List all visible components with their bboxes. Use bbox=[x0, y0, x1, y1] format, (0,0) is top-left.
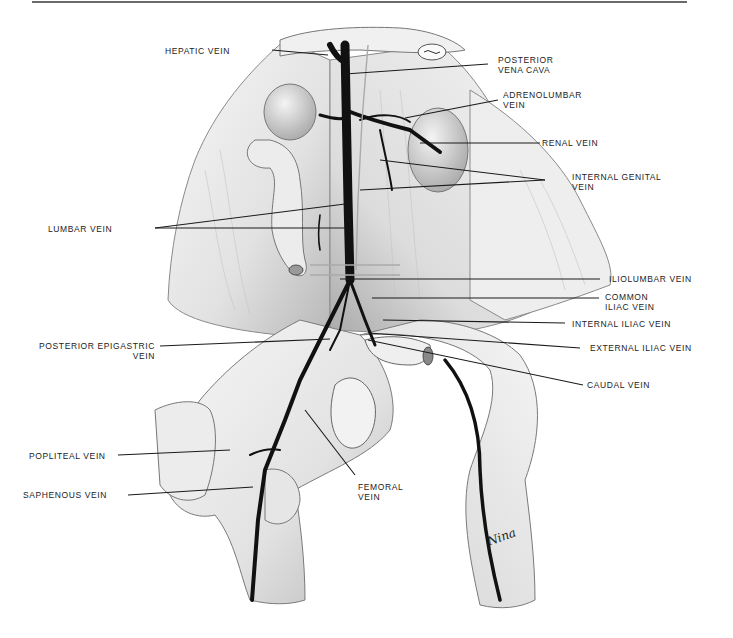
label-posterior-vena-cava: POSTERIOR VENA CAVA bbox=[498, 55, 553, 75]
label-caudal-vein: CAUDAL VEIN bbox=[587, 380, 650, 390]
label-line-2: ILIAC VEIN bbox=[605, 302, 654, 312]
label-adrenolumbar-vein: ADRENOLUMBAR VEIN bbox=[503, 90, 582, 110]
label-external-iliac-vein: EXTERNAL ILIAC VEIN bbox=[590, 343, 692, 353]
label-line-2: VEIN bbox=[358, 492, 403, 502]
label-line-2: VENA CAVA bbox=[498, 65, 553, 75]
label-hepatic-vein: HEPATIC VEIN bbox=[165, 46, 230, 56]
label-line-1: POSTERIOR EPIGASTRIC bbox=[25, 341, 155, 351]
label-posterior-epigastric-vein: POSTERIOR EPIGASTRIC VEIN bbox=[25, 341, 155, 361]
label-line-1: COMMON bbox=[605, 292, 654, 302]
label-line-1: ADRENOLUMBAR bbox=[503, 90, 582, 100]
label-renal-vein: RENAL VEIN bbox=[542, 138, 598, 148]
label-internal-iliac-vein: INTERNAL ILIAC VEIN bbox=[572, 319, 671, 329]
label-line-1: POSTERIOR bbox=[498, 55, 553, 65]
label-femoral-vein: FEMORAL VEIN bbox=[358, 482, 403, 502]
label-line-2: VEIN bbox=[503, 100, 582, 110]
label-common-iliac-vein: COMMON ILIAC VEIN bbox=[605, 292, 654, 312]
label-lumbar-vein: LUMBAR VEIN bbox=[48, 224, 112, 234]
label-saphenous-vein: SAPHENOUS VEIN bbox=[23, 490, 107, 500]
label-line-2: VEIN bbox=[25, 351, 155, 361]
label-iliolumbar-vein: ILIOLUMBAR VEIN bbox=[609, 274, 692, 284]
label-line-1: INTERNAL GENITAL bbox=[572, 172, 661, 182]
label-line-1: FEMORAL bbox=[358, 482, 403, 492]
label-line-2: VEIN bbox=[572, 182, 661, 192]
label-popliteal-vein: POPLITEAL VEIN bbox=[29, 451, 106, 461]
label-internal-genital-vein: INTERNAL GENITAL VEIN bbox=[572, 172, 661, 192]
